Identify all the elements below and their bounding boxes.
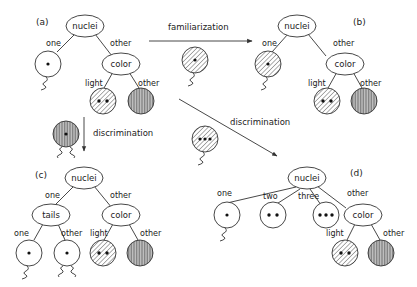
nuclei-label: nuclei — [71, 173, 96, 183]
cell-dark — [127, 240, 153, 266]
cell-dark — [128, 88, 154, 114]
nuclei-label: nuclei — [72, 21, 97, 31]
tail-icon — [220, 228, 226, 241]
discrimination-diag-transition: discrimination — [179, 99, 290, 165]
panel-d: (d) nuclei one two three other color lig… — [214, 167, 405, 266]
edge-other-label-4: other — [140, 229, 162, 238]
edge-three-label: three — [298, 192, 319, 201]
edge-one-label: one — [46, 39, 61, 48]
panel-b: (b) nuclei one other color light other — [255, 15, 382, 114]
tail-icon — [71, 266, 76, 277]
edge-one-label: one — [217, 189, 232, 198]
nuclei-label: nuclei — [294, 173, 319, 183]
discrimination-diag-arrow — [179, 99, 277, 156]
cell-dark — [368, 240, 394, 266]
panel-a: (a) nuclei one other color light other — [35, 15, 160, 114]
color-label: color — [111, 210, 132, 220]
tail-icon — [58, 266, 63, 277]
nuclei-label: nuclei — [284, 21, 309, 31]
edge-light-label: light — [326, 229, 344, 238]
cell-dark — [351, 88, 377, 114]
edge-other-label: other — [110, 191, 132, 200]
edge-light-label: light — [90, 229, 108, 238]
concept-learning-diagram: (a) nuclei one other color light other f… — [0, 0, 417, 287]
edge-one-label: one — [45, 191, 60, 200]
edge-light-label: light — [85, 79, 103, 88]
tail-icon — [57, 147, 62, 158]
familiarization-label: familiarization — [168, 22, 229, 32]
edge-light-label: light — [308, 79, 326, 88]
panel-c: (c) nuclei one other tails one other col… — [14, 167, 162, 279]
cell-light-two-nuclei — [314, 88, 340, 114]
tail-icon — [261, 77, 267, 90]
color-label: color — [335, 59, 356, 69]
cell-light-two-nuclei — [332, 240, 358, 266]
edge-other-label: other — [110, 39, 132, 48]
familiarization-transition: familiarization — [149, 22, 252, 86]
tail-icon — [22, 266, 28, 279]
edge-other-label-2: other — [360, 79, 382, 88]
discrimination-diag-label: discrimination — [230, 117, 290, 127]
edge-other-label-3: other — [61, 229, 83, 238]
edge-two-label: two — [263, 192, 278, 201]
cell-two-nuclei — [260, 202, 286, 228]
panel-d-label: (d) — [350, 168, 363, 178]
edge-other-label-2: other — [138, 79, 160, 88]
panel-b-label: (b) — [353, 17, 366, 27]
tail-icon — [70, 147, 75, 158]
panel-a-label: (a) — [36, 17, 49, 27]
tails-label: tails — [42, 210, 60, 220]
edge-other-label: other — [333, 39, 355, 48]
edge-one-label-2: one — [14, 229, 29, 238]
cell-light-two-nuclei — [90, 88, 116, 114]
tail-icon — [188, 73, 194, 86]
discrimination-down-transition: discrimination — [53, 117, 153, 158]
discrimination-down-label: discrimination — [93, 128, 153, 138]
edge-other-label-2: other — [383, 229, 405, 238]
tail-icon — [198, 152, 204, 165]
color-label: color — [111, 59, 132, 69]
color-label: color — [353, 210, 374, 220]
cell-light-two-nuclei — [90, 240, 116, 266]
edge-one-label: one — [262, 39, 277, 48]
tail-icon — [41, 77, 47, 90]
panel-c-label: (c) — [35, 170, 47, 180]
edge-other-label: other — [347, 189, 369, 198]
